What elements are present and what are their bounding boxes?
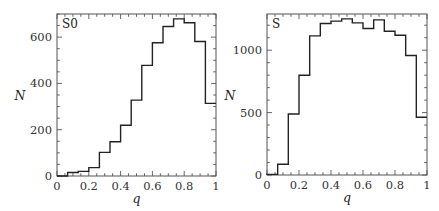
x-tick-label: 0.2	[290, 178, 308, 192]
x-axis-label: q	[343, 190, 351, 205]
y-tick-label: 500	[240, 106, 262, 120]
x-tick-label: 0.6	[143, 179, 161, 193]
histogram-steps	[267, 19, 427, 175]
x-tick-label: 0.8	[386, 178, 404, 192]
x-axis-label: q	[132, 191, 140, 206]
x-tick-label: 0.4	[322, 178, 340, 192]
panel-label: S	[272, 17, 280, 31]
x-tick-label: 1	[423, 178, 430, 192]
x-tick-label: 0.4	[111, 179, 129, 193]
panel-label: S0	[62, 17, 78, 31]
histogram-figure: 00.20.40.60.810200400600qNS0 00.20.40.60…	[0, 0, 439, 211]
y-tick-label: 0	[255, 168, 262, 182]
histogram-steps	[57, 19, 216, 176]
axis-ticks	[57, 14, 216, 176]
axis-ticks	[267, 14, 427, 175]
x-tick-label: 0	[53, 179, 60, 193]
x-tick-label: 1	[212, 179, 219, 193]
y-axis-label: N	[14, 88, 27, 103]
x-tick-label: 0.2	[80, 179, 98, 193]
y-tick-label: 600	[30, 30, 52, 44]
x-tick-label: 0	[263, 178, 270, 192]
y-tick-label: 1000	[233, 43, 262, 57]
x-tick-label: 0.8	[175, 179, 193, 193]
s0-histogram-panel: 00.20.40.60.810200400600qNS0	[14, 14, 220, 206]
y-tick-label: 400	[30, 76, 52, 90]
s-histogram-panel: 00.20.40.60.8105001000qNS	[224, 14, 431, 205]
x-tick-label: 0.6	[354, 178, 372, 192]
y-tick-label: 200	[30, 123, 52, 137]
y-axis-label: N	[224, 88, 237, 103]
plot-frame	[57, 14, 216, 176]
y-tick-label: 0	[45, 169, 52, 183]
plot-frame	[267, 14, 427, 175]
